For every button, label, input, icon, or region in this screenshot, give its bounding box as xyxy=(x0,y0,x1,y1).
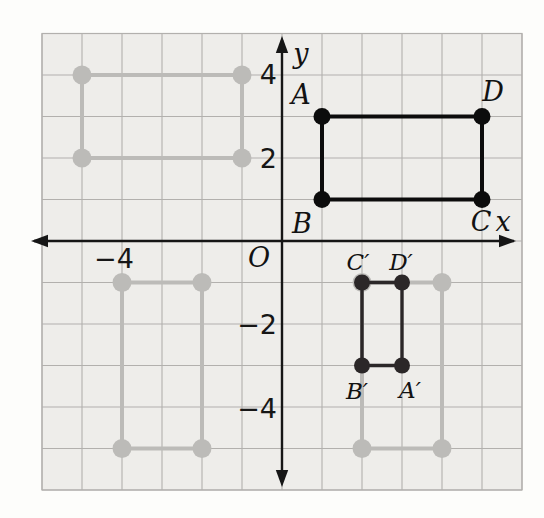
vertex-label-b: B xyxy=(291,208,312,239)
vertex-label-d: D xyxy=(481,76,504,107)
ghost-rectangle-bottom-left-vertex-dot xyxy=(193,439,212,458)
vertex-label-a: A xyxy=(288,79,311,110)
y-tick-neg-2: −2 xyxy=(237,309,277,340)
figure-area: −442−2−4xyOABCDC′D′B′A′ xyxy=(0,0,544,518)
vertex-label-b-prime: B′ xyxy=(345,378,369,404)
ghost-rectangle-bottom-left-vertex-dot xyxy=(113,439,132,458)
ghost-rectangle-top-left-vertex-dot xyxy=(73,149,92,168)
rectangle-abcd-vertex-dot xyxy=(314,191,331,208)
ghost-rectangle-bottom-right-vertex-dot xyxy=(353,439,372,458)
y-tick-2: 2 xyxy=(260,143,277,174)
coordinate-plane-figure: −442−2−4xyOABCDC′D′B′A′ xyxy=(0,0,544,518)
ghost-rectangle-top-left-vertex-dot xyxy=(233,149,252,168)
y-axis-label: y xyxy=(292,38,309,69)
vertex-label-a-prime: A′ xyxy=(397,377,422,403)
rectangle-abcd-image-primed-vertex-dot xyxy=(394,275,410,291)
ghost-rectangle-top-left-vertex-dot xyxy=(73,66,92,85)
x-axis-label: x xyxy=(495,206,510,237)
origin-label: O xyxy=(248,242,270,273)
rectangle-abcd-image-primed-vertex-dot xyxy=(354,358,370,374)
vertex-label-d-prime: D′ xyxy=(388,249,413,275)
y-tick-4: 4 xyxy=(260,59,277,90)
y-tick-neg-4: −4 xyxy=(237,393,277,424)
rectangle-abcd-vertex-dot xyxy=(474,108,491,125)
ghost-rectangle-top-left-vertex-dot xyxy=(233,66,252,85)
x-tick-neg-4: −4 xyxy=(94,243,134,274)
vertex-label-c-prime: C′ xyxy=(347,249,371,275)
ghost-rectangle-bottom-left-vertex-dot xyxy=(193,273,212,292)
rectangle-abcd-vertex-dot xyxy=(314,108,331,125)
vertex-label-c: C xyxy=(471,206,492,237)
ghost-rectangle-bottom-right-vertex-dot xyxy=(433,273,452,292)
ghost-rectangle-bottom-right-vertex-dot xyxy=(433,439,452,458)
ghost-rectangle-bottom-left-vertex-dot xyxy=(113,273,132,292)
rectangle-abcd-image-primed-vertex-dot xyxy=(394,358,410,374)
rectangle-abcd-image-primed-vertex-dot xyxy=(354,275,370,291)
